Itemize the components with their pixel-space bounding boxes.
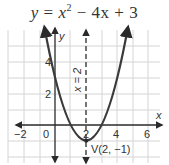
x-tick-4: 4 [113, 128, 119, 140]
x-tick-6: 6 [144, 128, 150, 140]
y-axis-label: y [58, 30, 66, 42]
x-tick-neg2: −2 [14, 128, 27, 140]
grid [8, 30, 160, 163]
y-tick-4: 4 [45, 56, 51, 68]
x-tick-2: 2 [83, 128, 89, 140]
graph: y x −2 0 2 4 6 2 4 x = 2 V(2, −1) [0, 0, 169, 165]
y-tick-2: 2 [45, 88, 51, 100]
x-tick-0: 0 [43, 128, 49, 140]
axis-of-symmetry-label: x = 2 [71, 68, 83, 93]
x-axis-label: x [155, 109, 162, 121]
vertex-label: V(2, −1) [91, 143, 130, 155]
parabola-curve [44, 27, 128, 140]
